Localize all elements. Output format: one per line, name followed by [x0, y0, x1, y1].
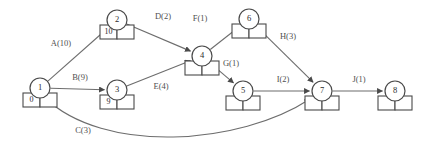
edge-label-j: J(1)	[352, 74, 365, 84]
node-7[interactable]: 7	[305, 81, 339, 110]
node-3[interactable]: 93	[100, 80, 134, 109]
edge-label-e: E(4)	[153, 81, 168, 91]
edge-d	[127, 24, 191, 51]
edge-label-b: B(9)	[72, 72, 88, 82]
node-4[interactable]: 4	[185, 46, 219, 75]
node-1-cell-early-value: 0	[30, 95, 34, 104]
edge-label-i: I(2)	[277, 74, 290, 84]
node-2-label: 2	[115, 14, 119, 24]
edge-b	[50, 88, 104, 89]
node-3-cell-early-value: 9	[107, 97, 111, 106]
edge-label-d: D(2)	[155, 11, 171, 21]
diagram-canvas: 011029345678 A(10)B(9)C(3)D(2)E(4)F(1)G(…	[0, 0, 426, 150]
node-6-label: 6	[247, 13, 251, 23]
edge-label-f: F(1)	[193, 13, 208, 23]
edge-layer	[44, 24, 383, 137]
node-6[interactable]: 6	[232, 9, 266, 38]
edge-label-c: C(3)	[75, 125, 91, 135]
node-5[interactable]: 5	[226, 81, 260, 110]
node-layer: 011029345678	[23, 9, 412, 110]
node-8-label: 8	[393, 85, 397, 95]
edge-label-g: G(1)	[223, 58, 239, 68]
node-7-label: 7	[320, 85, 324, 95]
node-1[interactable]: 01	[23, 78, 57, 107]
node-8[interactable]: 8	[378, 81, 412, 110]
edge-label-h: H(3)	[280, 31, 296, 41]
node-3-label: 3	[115, 84, 119, 94]
edge-label-a: A(10)	[51, 38, 71, 48]
node-2[interactable]: 102	[100, 10, 134, 39]
node-1-label: 1	[38, 82, 42, 92]
node-5-label: 5	[241, 85, 245, 95]
network-graph: 011029345678 A(10)B(9)C(3)D(2)E(4)F(1)G(…	[0, 0, 426, 150]
